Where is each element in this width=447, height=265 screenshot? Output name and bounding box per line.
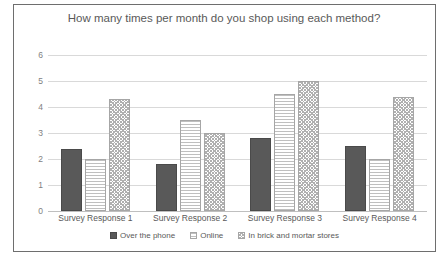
bar-group: [48, 55, 143, 211]
plot-area: 0123456: [14, 55, 435, 211]
x-axis-label: Survey Response 2: [143, 213, 238, 223]
legend-swatch-icon: [190, 232, 197, 239]
bar[interactable]: [180, 120, 201, 211]
legend-swatch-icon: [238, 232, 245, 239]
y-axis-tick-label: 6: [38, 50, 43, 60]
y-axis-tick-label: 1: [38, 180, 43, 190]
y-axis-tick-label: 3: [38, 128, 43, 138]
x-axis-label: Survey Response 3: [238, 213, 333, 223]
y-axis-tick-label: 4: [38, 102, 43, 112]
bar[interactable]: [85, 159, 106, 211]
x-axis-labels: Survey Response 1Survey Response 2Survey…: [48, 213, 427, 223]
y-axis-tick-label: 0: [38, 206, 43, 216]
chart-title: How many times per month do you shop usi…: [54, 11, 394, 27]
bar[interactable]: [369, 159, 390, 211]
bar-group: [143, 55, 238, 211]
legend-label: Online: [200, 231, 223, 240]
x-axis-label: Survey Response 1: [48, 213, 143, 223]
bar[interactable]: [250, 138, 271, 211]
bar[interactable]: [61, 149, 82, 211]
bar[interactable]: [274, 94, 295, 211]
bar[interactable]: [345, 146, 366, 211]
y-axis-tick-label: 2: [38, 154, 43, 164]
bar[interactable]: [156, 164, 177, 211]
legend-swatch-icon: [110, 232, 117, 239]
x-axis-label: Survey Response 4: [332, 213, 427, 223]
legend-label: In brick and mortar stores: [248, 231, 339, 240]
chart-legend: Over the phoneOnlineIn brick and mortar …: [14, 231, 435, 240]
y-axis: 0123456: [14, 55, 48, 211]
chart-container: How many times per month do you shop usi…: [13, 4, 436, 252]
bar[interactable]: [393, 97, 414, 211]
legend-item[interactable]: Online: [190, 231, 223, 240]
gridline: [48, 211, 427, 212]
bar[interactable]: [204, 133, 225, 211]
legend-item[interactable]: Over the phone: [110, 231, 175, 240]
legend-item[interactable]: In brick and mortar stores: [238, 231, 339, 240]
bar[interactable]: [109, 99, 130, 211]
legend-label: Over the phone: [120, 231, 175, 240]
bars-area: [48, 55, 427, 211]
bar[interactable]: [298, 81, 319, 211]
y-axis-tick-label: 5: [38, 76, 43, 86]
bar-group: [238, 55, 333, 211]
bar-group: [332, 55, 427, 211]
